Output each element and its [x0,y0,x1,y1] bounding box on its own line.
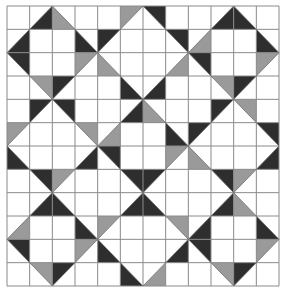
quilt-background [0,0,284,294]
quilt-pattern [0,0,284,294]
